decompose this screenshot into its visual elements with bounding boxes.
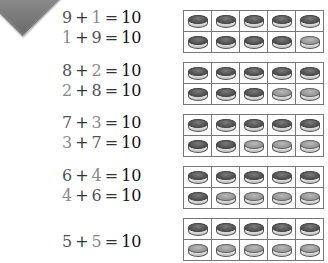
ten-frame-cell	[267, 83, 296, 105]
ten-frame-cell	[267, 31, 296, 53]
ten-frame	[183, 114, 328, 158]
addend-b: 7	[92, 133, 102, 152]
equation: 7+3=10	[62, 113, 162, 133]
dark-counter-icon	[300, 171, 320, 185]
dark-counter-icon	[272, 223, 292, 237]
sum: 10	[121, 166, 141, 185]
ten-frame	[183, 62, 328, 106]
ten-frame-cell	[239, 218, 268, 240]
plus-sign: +	[72, 61, 91, 80]
ten-frame-cell	[211, 62, 240, 84]
plus-sign: +	[72, 81, 91, 100]
dark-counter-icon	[300, 119, 320, 133]
ten-frame-cell	[295, 62, 324, 84]
light-counter-icon	[300, 192, 320, 206]
dark-counter-icon	[272, 67, 292, 81]
equals-sign: =	[102, 232, 121, 251]
equation: 2+8=10	[62, 81, 162, 101]
addend-a: 7	[62, 113, 72, 132]
light-counter-icon	[244, 192, 264, 206]
ten-frame-cell	[295, 166, 324, 188]
equals-sign: =	[102, 166, 121, 185]
ten-frame-row	[183, 62, 328, 84]
equals-sign: =	[102, 28, 121, 47]
dark-counter-icon	[272, 15, 292, 29]
light-counter-icon	[216, 244, 236, 258]
light-counter-icon	[272, 140, 292, 154]
dark-counter-icon	[300, 67, 320, 81]
equation-pair: 9+1=101+9=10	[62, 8, 162, 48]
ten-frame-row	[183, 240, 328, 262]
dark-counter-icon	[188, 119, 208, 133]
dark-counter-icon	[188, 67, 208, 81]
equals-sign: =	[102, 186, 121, 205]
ten-frame-cell	[211, 31, 240, 53]
dark-counter-icon	[244, 88, 264, 102]
ten-frame-cell	[267, 62, 296, 84]
ten-frame-cell	[239, 239, 268, 261]
ten-frame-cell	[211, 239, 240, 261]
ten-frame-cell	[183, 83, 212, 105]
ten-frame-cell	[183, 166, 212, 188]
logo-badge: WAY	[0, 0, 64, 36]
ten-frame-cell	[295, 83, 324, 105]
ten-frame-cell	[183, 31, 212, 53]
ten-frame-cell	[211, 187, 240, 209]
plus-sign: +	[72, 166, 91, 185]
equals-sign: =	[102, 133, 121, 152]
ten-frame-cell	[267, 10, 296, 32]
ten-frame-cell	[211, 135, 240, 157]
ten-frame-cell	[295, 187, 324, 209]
dark-counter-icon	[216, 171, 236, 185]
dark-counter-icon	[244, 15, 264, 29]
ten-frame-row	[183, 166, 328, 188]
ten-frame-cell	[239, 187, 268, 209]
ten-frame-cell	[267, 135, 296, 157]
light-counter-icon	[300, 244, 320, 258]
plus-sign: +	[72, 133, 91, 152]
sum: 10	[121, 232, 141, 251]
equation: 4+6=10	[62, 186, 162, 206]
ten-frame-cell	[211, 10, 240, 32]
ten-frame-cell	[211, 83, 240, 105]
addend-a: 3	[62, 133, 72, 152]
ten-frame-cell	[295, 114, 324, 136]
dark-counter-icon	[244, 223, 264, 237]
ten-frame-row	[183, 114, 328, 136]
dark-counter-icon	[188, 223, 208, 237]
dark-counter-icon	[216, 119, 236, 133]
ten-frame	[183, 218, 328, 262]
light-counter-icon	[272, 244, 292, 258]
ten-frame-row	[183, 84, 328, 106]
light-counter-icon	[244, 244, 264, 258]
dark-counter-icon	[300, 15, 320, 29]
equals-sign: =	[102, 113, 121, 132]
dark-counter-icon	[244, 67, 264, 81]
dark-counter-icon	[188, 171, 208, 185]
ten-frame-row	[183, 136, 328, 158]
ten-frame-row	[183, 32, 328, 54]
addend-a: 8	[62, 61, 72, 80]
equation: 8+2=10	[62, 61, 162, 81]
ten-frame-cell	[267, 187, 296, 209]
dark-counter-icon	[244, 171, 264, 185]
addend-a: 9	[62, 8, 72, 27]
addend-b: 2	[92, 61, 102, 80]
addend-a: 1	[62, 28, 72, 47]
equals-sign: =	[102, 61, 121, 80]
light-counter-icon	[300, 140, 320, 154]
addend-b: 3	[92, 113, 102, 132]
dark-counter-icon	[272, 119, 292, 133]
dark-counter-icon	[188, 140, 208, 154]
plus-sign: +	[72, 232, 91, 251]
light-counter-icon	[216, 192, 236, 206]
ten-frame-cell	[211, 218, 240, 240]
plus-sign: +	[72, 8, 91, 27]
equation: 6+4=10	[62, 166, 162, 186]
ten-frame-cell	[211, 166, 240, 188]
dark-counter-icon	[216, 15, 236, 29]
ten-frame-cell	[183, 62, 212, 84]
ten-frame-cell	[183, 135, 212, 157]
equation-pair: 6+4=104+6=10	[62, 166, 162, 206]
addend-b: 8	[92, 81, 102, 100]
